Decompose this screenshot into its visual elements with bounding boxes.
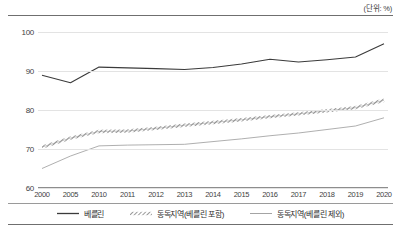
x-tick-label: 2013 (177, 190, 193, 199)
x-tick-label: 2018 (319, 190, 335, 199)
y-tick-label: 60 (10, 184, 34, 193)
legend-divider (8, 203, 393, 204)
y-tick-label: 70 (10, 145, 34, 154)
y-tick-label: 100 (10, 28, 34, 37)
top-divider (8, 15, 393, 16)
x-tick-label: 2010 (91, 190, 107, 199)
legend-item[interactable]: 동독지역(베를린 포함) (130, 208, 224, 219)
x-tick-label: 2016 (262, 190, 278, 199)
x-tick-label: 2011 (120, 190, 135, 199)
legend-label: 베를린 (84, 208, 104, 219)
chart-legend: 베를린동독지역(베를린 포함)동독지역(베를린 제외) (0, 208, 401, 219)
legend-swatch (130, 210, 152, 217)
x-tick-label: 2017 (291, 190, 307, 199)
legend-label: 동독지역(베를린 포함) (157, 208, 224, 219)
x-tick-label: 2014 (205, 190, 221, 199)
legend-swatch (57, 210, 79, 217)
x-tick-label: 2000 (34, 190, 50, 199)
legend-label: 동독지역(베를린 제외) (277, 208, 344, 219)
gridline (38, 188, 388, 189)
x-tick-label: 2005 (63, 190, 79, 199)
y-axis-labels: 60708090100 (38, 32, 388, 188)
x-tick-label: 2020 (376, 190, 392, 199)
legend-item[interactable]: 베를린 (57, 208, 104, 219)
x-tick-label: 2012 (148, 190, 164, 199)
y-tick-label: 90 (10, 67, 34, 76)
legend-swatch (250, 210, 272, 217)
unit-label: (단위: %) (364, 2, 392, 13)
legend-item[interactable]: 동독지역(베를린 제외) (250, 208, 344, 219)
y-tick-label: 80 (10, 106, 34, 115)
bottom-divider (8, 224, 393, 225)
x-tick-label: 2015 (234, 190, 250, 199)
chart-figure: (단위: %) 60708090100 20002005201020112012… (0, 0, 401, 230)
x-tick-label: 2019 (348, 190, 364, 199)
